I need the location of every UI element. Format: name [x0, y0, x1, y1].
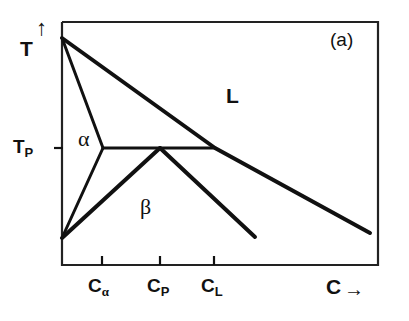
- y-tick-label-tp-sub: P: [25, 145, 34, 160]
- phase-label-alpha: α: [78, 128, 90, 150]
- x-axis-title: C: [326, 276, 341, 297]
- phase-boundary-beta-solidus-left: [62, 148, 160, 238]
- x-tick-label-c-p-sub: P: [161, 284, 170, 299]
- x-tick-label-c-l: CL: [201, 276, 223, 295]
- phase-boundary-liquidus: [62, 38, 370, 233]
- x-tick-label-c-alpha-sub: α: [102, 284, 109, 299]
- x-tick-label-c-alpha-base: C: [88, 275, 102, 296]
- plot-frame: [62, 22, 378, 265]
- x-tick-label-c-p-base: C: [147, 275, 161, 296]
- phase-boundary-alpha-solvus: [62, 148, 103, 238]
- x-tick-label-c-l-sub: L: [215, 284, 223, 299]
- frame-border: [62, 22, 378, 265]
- y-tick-label-tp: TP: [13, 137, 33, 156]
- axis-ticks: [54, 148, 214, 265]
- x-tick-label-c-p: CP: [147, 276, 169, 295]
- phase-label-beta: β: [140, 196, 151, 218]
- x-axis-arrow-icon: →: [344, 279, 364, 299]
- phase-boundary-curves: [62, 38, 370, 238]
- y-tick-label-tp-base: T: [13, 136, 25, 157]
- y-axis-title: T: [20, 38, 33, 59]
- phase-label-liquid: L: [226, 85, 239, 106]
- x-tick-label-c-alpha: Cα: [88, 276, 109, 295]
- phase-diagram-figure: T ↑ TP Cα CP CL C → α β L (a): [0, 0, 409, 321]
- y-axis-arrow-icon: ↑: [36, 17, 47, 39]
- x-tick-label-c-l-base: C: [201, 275, 215, 296]
- panel-label: (a): [330, 30, 353, 49]
